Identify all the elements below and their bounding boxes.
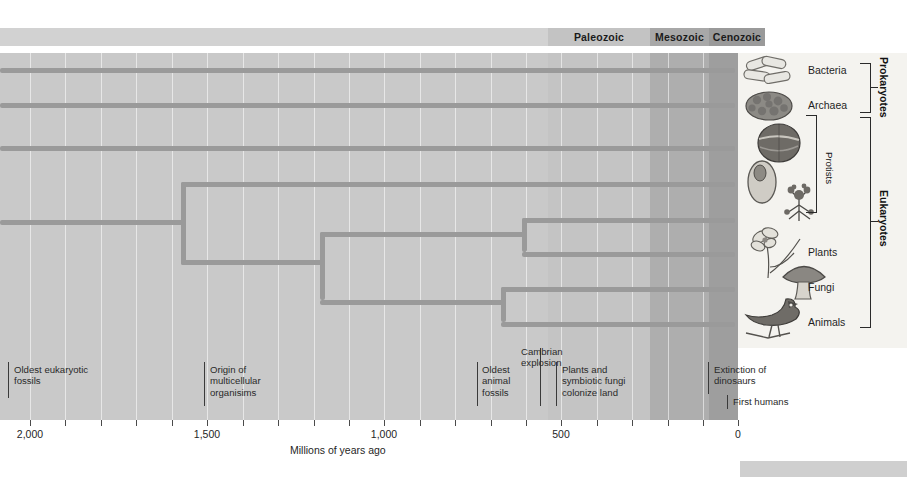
group-label-prokaryotes: Prokaryotes xyxy=(878,57,890,118)
bird-animal-icon xyxy=(742,293,806,345)
era-header-band: Paleozoic Mesozoic Cenozoic xyxy=(0,28,765,46)
axis-tick-1600 xyxy=(172,420,173,426)
tick-first-humans xyxy=(727,395,728,409)
annotation-origin-multicellular: Origin of multicellular organisims xyxy=(210,364,261,398)
axis-tick-300 xyxy=(632,420,633,426)
axis-tick-1700 xyxy=(136,420,137,426)
bracket-stem-eukaryotes xyxy=(870,221,878,222)
branch-eukaryote-stem xyxy=(0,220,186,225)
annotation-first-humans: First humans xyxy=(733,396,788,407)
axis-tick-0 xyxy=(738,420,739,426)
axis-tick-1300 xyxy=(278,420,279,426)
node-eukaryote-split xyxy=(181,182,186,265)
taxon-label-bacteria: Bacteria xyxy=(808,64,847,76)
axis-tick-1400 xyxy=(243,420,244,426)
axis-tick-1500 xyxy=(207,420,208,426)
era-header-paleozoic: Paleozoic xyxy=(548,28,650,46)
axis-title: Millions of years ago xyxy=(290,444,386,456)
tick-extinction-dinosaurs xyxy=(708,362,709,394)
axis-tick-100 xyxy=(703,420,704,426)
branch-plants xyxy=(522,252,735,257)
era-header-mesozoic: Mesozoic xyxy=(650,28,709,46)
bracket-eukaryotes xyxy=(860,117,871,328)
tick-oldest-eukaryotic xyxy=(8,362,9,398)
era-header-cenozoic: Cenozoic xyxy=(709,28,765,46)
taxon-label-protists: Protists xyxy=(824,152,835,184)
axis-label-500: 500 xyxy=(552,428,570,440)
annotation-plants-fungi-land: Plants and symbiotic fungi colonize land xyxy=(562,364,625,398)
branch-to-plants-node xyxy=(320,232,527,237)
bracket-protists xyxy=(806,115,817,213)
branch-archaea xyxy=(0,103,735,108)
axis-label-1000: 1,000 xyxy=(371,428,397,440)
bottom-right-band xyxy=(740,461,907,477)
archaea-icon xyxy=(744,89,794,123)
axis-tick-500 xyxy=(561,420,562,426)
axis-tick-1100 xyxy=(349,420,350,426)
taxa-legend-panel: Bacteria Archaea Protists Plants Fungi A… xyxy=(738,53,907,348)
axis-tick-200 xyxy=(668,420,669,426)
node-plants-split xyxy=(522,218,527,252)
protist-shell-icon xyxy=(754,123,804,163)
annotation-oldest-eukaryotic: Oldest eukaryotic fossils xyxy=(14,364,88,387)
bracket-prokaryotes xyxy=(860,63,871,113)
bacteria-icon xyxy=(742,55,794,89)
axis-label-2000: 2,000 xyxy=(17,428,43,440)
axis-tick-700 xyxy=(491,420,492,426)
branch-to-fungi-animals-node xyxy=(320,300,506,305)
tick-oldest-animal xyxy=(477,362,478,406)
taxon-label-archaea: Archaea xyxy=(808,99,847,111)
tick-origin-multicellular xyxy=(204,362,205,406)
axis-label-1500: 1,500 xyxy=(194,428,220,440)
taxon-label-animals: Animals xyxy=(808,316,845,328)
bracket-stem-prokaryotes xyxy=(870,87,878,88)
axis-label-0: 0 xyxy=(735,428,741,440)
axis-tick-1200 xyxy=(314,420,315,426)
node-second-split xyxy=(320,232,325,300)
group-label-eukaryotes: Eukaryotes xyxy=(878,190,890,247)
branch-bacteria xyxy=(0,68,735,73)
axis-tick-1800 xyxy=(101,420,102,426)
axis-tick-1000 xyxy=(384,420,385,426)
axis-tick-800 xyxy=(455,420,456,426)
branch-to-node2 xyxy=(181,260,325,265)
node-fungi-animals-split xyxy=(501,287,506,322)
tick-plants-fungi-land xyxy=(556,362,557,406)
era-header-precambrian xyxy=(0,28,548,46)
branch-protist-2 xyxy=(181,182,735,187)
annotation-extinction-dinosaurs: Extinction of dinosaurs xyxy=(714,364,766,387)
axis-tick-2000 xyxy=(30,420,31,426)
taxon-label-fungi: Fungi xyxy=(808,281,834,293)
axis-tick-900 xyxy=(420,420,421,426)
axis-tick-600 xyxy=(526,420,527,426)
branch-protist-1 xyxy=(0,146,735,151)
branch-protist-3 xyxy=(522,218,735,223)
axis-tick-1900 xyxy=(65,420,66,426)
taxon-label-plants: Plants xyxy=(808,246,837,258)
time-axis: 2,000 1,500 1,000 500 0 Millions of year… xyxy=(0,420,760,460)
branch-fungi xyxy=(501,287,735,292)
axis-tick-400 xyxy=(597,420,598,426)
branch-animals xyxy=(501,322,735,327)
annotation-oldest-animal: Oldest animal fossils xyxy=(482,364,510,398)
